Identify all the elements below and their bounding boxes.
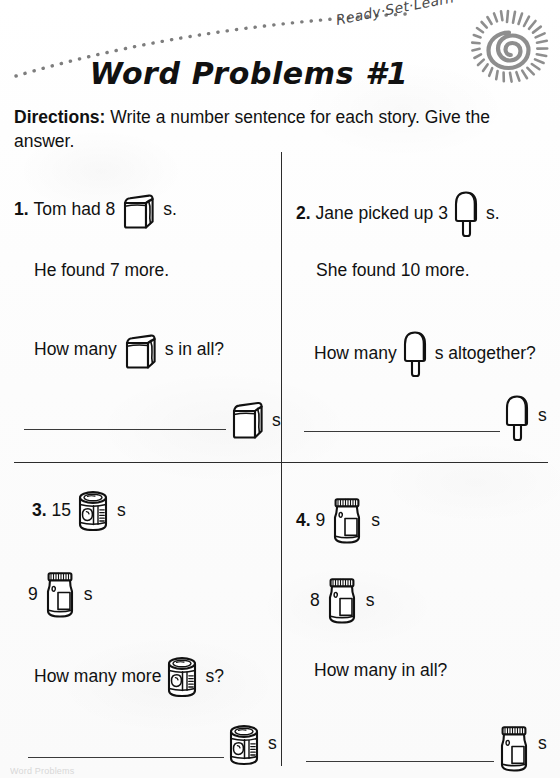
tin-can-icon: [162, 652, 204, 702]
problem-2-line-3-before: How many: [314, 345, 397, 363]
problem-3: 3. 15: [10, 470, 276, 766]
problem-2-answer-suffix: s: [538, 407, 547, 425]
problem-4-answer-row[interactable]: s: [306, 718, 547, 770]
problem-4-line-1: 4. 9: [296, 492, 380, 550]
glass-jar-icon: [322, 572, 364, 630]
problem-1-line-1-after: s.: [163, 201, 177, 219]
problem-3-line-2-after: s: [84, 586, 93, 604]
problem-1-line-1: 1. Tom had 8 s.: [14, 188, 177, 232]
problem-1-line-2-text: He found 7 more.: [34, 262, 169, 280]
problem-1-answer-row[interactable]: s: [24, 392, 281, 438]
problem-1-answer-line[interactable]: [24, 429, 226, 430]
tin-can-icon: [73, 486, 115, 536]
problem-3-line-3-before: How many more: [34, 668, 161, 686]
glass-jar-icon: [327, 492, 369, 550]
directions: Directions: Write a number sentence for …: [14, 106, 530, 153]
problem-4-line-1-before: 9: [316, 512, 326, 530]
problem-4-line-3-before: How many in all?: [314, 662, 447, 680]
problem-3-line-3: How many more: [34, 652, 224, 702]
problem-2-answer-row[interactable]: s: [304, 390, 547, 440]
problem-1-line-3: How many s in all?: [34, 328, 224, 372]
problem-2-line-1: 2. Jane picked up 3 s.: [296, 188, 500, 240]
problem-3-answer-suffix: s: [268, 735, 277, 753]
problem-4-number: 4.: [296, 512, 311, 530]
directions-label: Directions:: [14, 107, 105, 127]
paper-bag-icon: [119, 328, 163, 372]
problem-1-line-1-before: Tom had 8: [34, 201, 116, 219]
problem-2-line-3-after: s altogether?: [435, 345, 536, 363]
problem-1-number: 1.: [14, 201, 29, 219]
popsicle-icon: [398, 328, 434, 380]
problem-3-line-1: 3. 15: [32, 486, 126, 536]
popsicle-icon: [449, 188, 485, 240]
problem-2-line-2-text: She found 10 more.: [316, 262, 470, 280]
problem-3-line-2-before: 9: [28, 586, 38, 604]
paper-bag-icon: [226, 392, 270, 442]
page-title: Word Problems #1: [0, 56, 560, 91]
problem-1-line-3-after: s in all?: [165, 341, 224, 359]
problem-3-answer-row[interactable]: s: [28, 718, 277, 766]
worksheet-page: Ready·Set·Learn: [0, 0, 560, 778]
problem-3-number: 3.: [32, 502, 47, 520]
problem-4: 4. 9: [292, 470, 554, 766]
problem-4-line-2: 8: [310, 572, 374, 630]
problem-2-line-1-before: Jane picked up 3: [316, 205, 448, 223]
problem-3-line-1-after: s: [117, 502, 126, 520]
problem-2-answer-line[interactable]: [304, 431, 500, 432]
problem-3-line-2: 9: [28, 566, 92, 624]
problem-1: 1. Tom had 8 s. He f: [10, 166, 276, 446]
problem-4-answer-suffix: s: [538, 735, 547, 753]
glass-jar-icon: [494, 718, 536, 778]
problem-3-line-3-after: s?: [205, 668, 223, 686]
glass-jar-icon: [40, 566, 82, 624]
problem-3-line-1-before: 15: [52, 502, 71, 520]
problem-2-line-2: She found 10 more.: [316, 262, 470, 280]
problem-2-line-3: How many s altogether?: [314, 328, 536, 380]
problem-2-line-1-after: s.: [486, 205, 500, 223]
problem-4-answer-line[interactable]: [306, 761, 494, 762]
footer-scrap-text: Word Problems: [10, 766, 260, 778]
problem-1-line-3-before: How many: [34, 341, 117, 359]
problem-2-number: 2.: [296, 205, 311, 223]
problem-2: 2. Jane picked up 3 s. She found 10 more…: [292, 166, 554, 446]
popsicle-icon: [500, 390, 536, 446]
vertical-divider: [281, 152, 282, 766]
problem-1-line-2: He found 7 more.: [34, 262, 169, 280]
problem-4-line-3: How many in all?: [314, 662, 447, 680]
paper-bag-icon: [117, 188, 161, 232]
tin-can-icon: [224, 718, 266, 772]
problem-1-answer-suffix: s: [272, 412, 281, 430]
problem-3-answer-line[interactable]: [28, 757, 224, 758]
problem-4-line-2-after: s: [366, 592, 375, 610]
problem-4-line-1-after: s: [371, 512, 380, 530]
problem-4-line-2-before: 8: [310, 592, 320, 610]
